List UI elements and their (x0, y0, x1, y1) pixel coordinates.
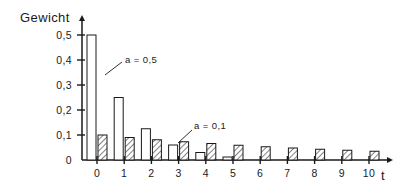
bar-hatched-t9 (343, 150, 352, 160)
x-tick-label-5: 5 (230, 167, 236, 179)
bar-hatched-t8 (316, 149, 325, 160)
bar-hatched-t2 (152, 140, 161, 160)
y-tick-label-2: 0,3 (56, 79, 72, 91)
bar-open-t5 (223, 157, 232, 160)
bar-hatched-t6 (261, 147, 270, 160)
bar-hatched-t0 (98, 135, 107, 160)
annotation-a01-label: a = 0,1 (194, 120, 226, 131)
bar-hatched-t7 (288, 148, 297, 160)
x-tick-label-3: 3 (175, 167, 181, 179)
annotation-a05: a = 0,5 (105, 54, 157, 75)
y-axis-group: Gewicht 0,5 0,4 0,3 0,2 0,1 0 (20, 10, 85, 166)
bar-open-t0 (87, 35, 96, 160)
x-tick-label-7: 7 (284, 167, 290, 179)
bar-hatched-t4 (207, 144, 216, 161)
x-tick-label-0: 0 (94, 167, 100, 179)
x-tick-label-6: 6 (257, 167, 263, 179)
y-tick-label-3: 0,2 (56, 104, 72, 116)
x-tick-label-group: 012345678910 (94, 167, 375, 179)
x-tick-label-10: 10 (363, 167, 375, 179)
annotation-a05-leader (105, 62, 122, 75)
y-tick-label-5: 0 (66, 154, 72, 166)
bar-open-t4 (196, 153, 205, 161)
bar-hatched-t3 (180, 142, 189, 160)
y-axis-title: Gewicht (20, 10, 70, 25)
x-tick-label-8: 8 (311, 167, 317, 179)
bar-open-t1 (114, 98, 123, 161)
bar-hatched-t5 (234, 145, 243, 160)
x-tick-label-1: 1 (121, 167, 127, 179)
bar-open-t3 (169, 145, 178, 160)
annotation-a05-label: a = 0,5 (125, 54, 157, 65)
x-tick-label-4: 4 (203, 167, 209, 179)
bar-open-t2 (141, 129, 150, 160)
bar-hatched-t10 (370, 151, 379, 160)
y-tick-label-0: 0,5 (56, 29, 72, 41)
x-axis-title: t (381, 168, 385, 183)
series-bars-hatched (98, 135, 379, 160)
annotation-a01: a = 0,1 (178, 120, 226, 143)
chart-figure: Gewicht 0,5 0,4 0,3 0,2 0,1 0 t 01234567… (0, 0, 403, 188)
x-tick-label-9: 9 (339, 167, 345, 179)
bar-hatched-t1 (125, 138, 134, 161)
y-tick-label-4: 0,1 (56, 129, 72, 141)
x-tick-label-2: 2 (148, 167, 154, 179)
weights-bar-chart: Gewicht 0,5 0,4 0,3 0,2 0,1 0 t 01234567… (0, 0, 403, 188)
annotation-a01-leader (178, 130, 192, 143)
y-tick-label-1: 0,4 (56, 54, 72, 66)
